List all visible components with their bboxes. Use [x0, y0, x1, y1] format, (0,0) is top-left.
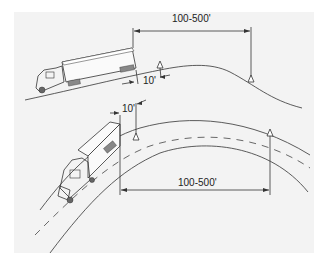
warning-placement-diagram: 100-500' 10' [0, 0, 328, 269]
hill-offset-label: 10' [143, 75, 156, 86]
curve-truck-wheel [90, 178, 95, 183]
hill-truck-wheel [39, 87, 45, 93]
curve-truck-wheel [67, 197, 73, 203]
curve-offset-label: 10' [122, 103, 135, 114]
curve-distance-label: 100-500' [178, 177, 217, 188]
hill-distance-label: 100-500' [172, 13, 211, 24]
